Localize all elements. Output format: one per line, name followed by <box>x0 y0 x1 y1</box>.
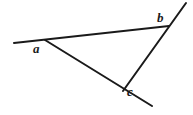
vertex-label-c: c <box>127 85 133 98</box>
vertex-label-a: a <box>33 42 40 55</box>
vertex-label-b: b <box>157 11 164 24</box>
geometry-canvas <box>0 0 193 115</box>
segment-ray-through-b-and-c <box>123 3 186 91</box>
geometry-figure: a b c <box>0 0 193 115</box>
